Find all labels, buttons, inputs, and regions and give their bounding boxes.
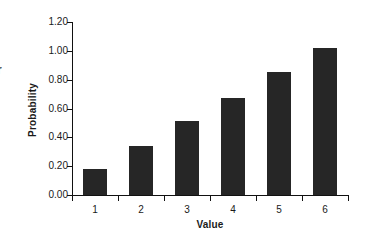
x-tick-mark [210, 196, 211, 201]
x-tick-mark [256, 196, 257, 201]
plot-area: 0.000.200.400.600.801.001.20 123456 [72, 22, 348, 195]
bar [129, 146, 153, 195]
y-tick-label: 0.80 [49, 73, 68, 86]
x-tick-mark [348, 196, 349, 201]
x-tick-mark [302, 196, 303, 201]
x-axis-title: Value [72, 219, 348, 230]
y-tick-label: 0.40 [49, 130, 68, 143]
y-tick-label: 1.00 [49, 44, 68, 57]
clipped-edge-text: r [0, 64, 6, 76]
y-tick-label: 0.20 [49, 159, 68, 172]
bar-series [72, 22, 348, 195]
x-category-label: 6 [302, 203, 348, 216]
x-category-label: 1 [72, 203, 118, 216]
bar [313, 48, 337, 195]
y-axis-title: Probability [27, 70, 40, 150]
x-tick-mark [118, 196, 119, 201]
x-category-label: 3 [164, 203, 210, 216]
x-tick-mark [72, 196, 73, 201]
bar [83, 169, 107, 195]
y-tick-label: 0.00 [49, 188, 68, 201]
x-tick-mark [164, 196, 165, 201]
x-category-label: 4 [210, 203, 256, 216]
y-tick-label: 0.60 [49, 102, 68, 115]
bar-chart-figure: r Probability Value 0.000.200.400.600.80… [0, 0, 368, 240]
bar [175, 121, 199, 195]
bar [221, 98, 245, 195]
bar [267, 72, 291, 195]
x-category-label: 5 [256, 203, 302, 216]
x-category-label: 2 [118, 203, 164, 216]
y-tick-label: 1.20 [49, 15, 68, 28]
